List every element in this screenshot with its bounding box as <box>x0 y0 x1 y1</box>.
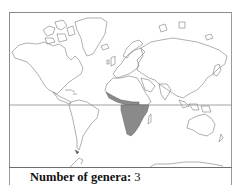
southern-africa-range <box>121 105 149 136</box>
arctic-islands <box>43 20 75 44</box>
asia <box>137 38 227 98</box>
india <box>159 84 171 100</box>
frame-left-edge <box>9 168 10 185</box>
north-america <box>12 42 83 94</box>
caption-label: Number of genera <box>30 170 127 184</box>
australia <box>187 114 215 136</box>
scandinavia <box>123 40 143 58</box>
world-map <box>9 12 232 168</box>
british-isles <box>107 56 115 66</box>
southeast-asia-islands <box>179 100 211 112</box>
new-zealand <box>219 134 223 142</box>
asia-arctic-islands <box>159 22 213 40</box>
caribbean <box>65 90 77 94</box>
genera-count-caption: Number of genera: 3 <box>30 170 141 185</box>
west-africa-range <box>106 92 139 105</box>
greenland <box>75 18 107 56</box>
madagascar <box>148 114 151 124</box>
caption-divider <box>9 167 232 168</box>
tierra-del-fuego <box>75 150 79 154</box>
iceland <box>101 44 109 50</box>
central-america <box>53 92 71 104</box>
caption-value: 3 <box>134 170 140 184</box>
north-africa <box>105 76 151 105</box>
europe <box>113 48 145 78</box>
arabia <box>141 78 155 92</box>
south-america <box>69 100 99 150</box>
